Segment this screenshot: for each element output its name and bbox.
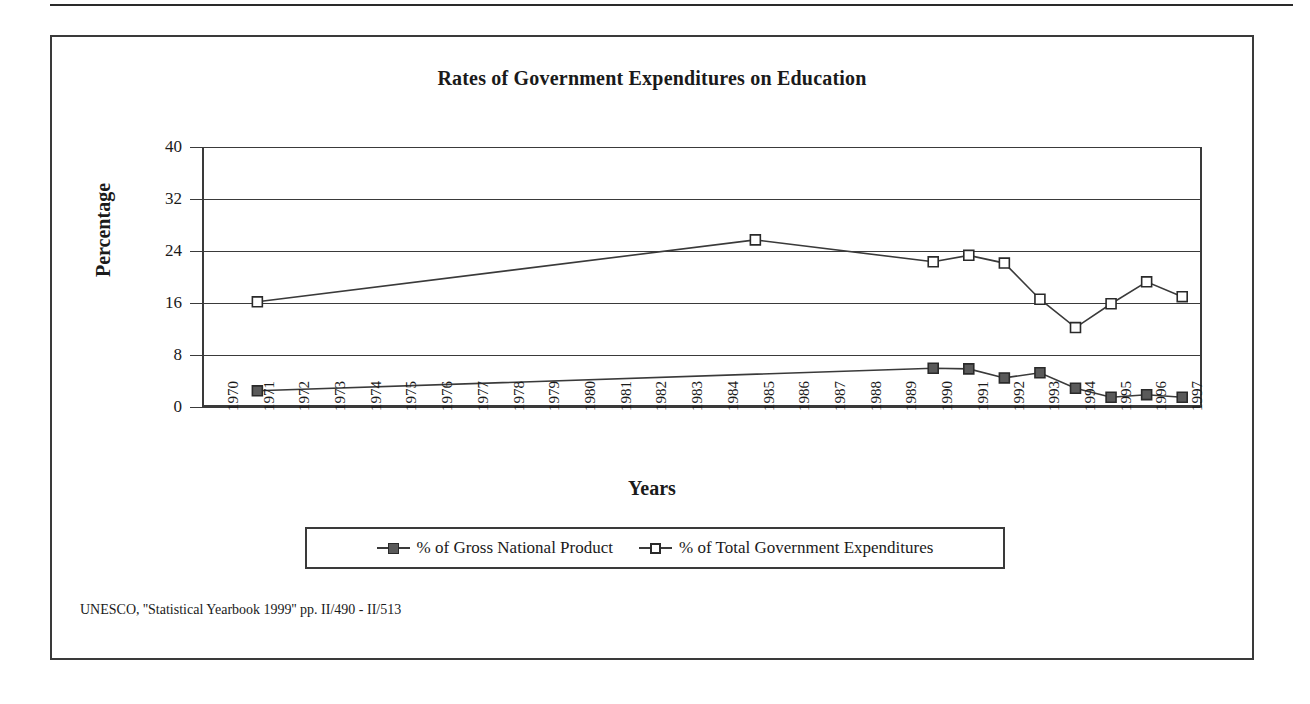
x-tick-label-1970: 1970 — [225, 381, 242, 411]
x-tick-label-1986: 1986 — [796, 381, 813, 411]
x-tick-label-1985: 1985 — [761, 381, 778, 411]
y-tick-24 — [190, 251, 204, 252]
x-tick-label-1990: 1990 — [939, 381, 956, 411]
y-tick-label-24: 24 — [165, 241, 182, 261]
open-square-marker-icon — [639, 543, 672, 554]
x-tick-label-1991: 1991 — [975, 381, 992, 411]
data-point-1997-total — [1177, 292, 1187, 302]
x-tick-label-1994: 1994 — [1082, 381, 1099, 411]
x-tick-label-1982: 1982 — [653, 381, 670, 411]
x-tick-label-1975: 1975 — [403, 381, 420, 411]
x-tick-label-1977: 1977 — [475, 381, 492, 411]
figure-frame: Rates of Government Expenditures on Educ… — [50, 35, 1254, 660]
x-tick-label-1989: 1989 — [903, 381, 920, 411]
y-tick-label-32: 32 — [165, 189, 182, 209]
y-tick-32 — [190, 199, 204, 200]
data-point-1992-gnp — [999, 373, 1009, 383]
x-tick-label-1978: 1978 — [511, 381, 528, 411]
legend-entry-gnp: % of Gross National Product — [377, 538, 613, 558]
plot-wrapper: 0816243240 — [202, 147, 1202, 407]
y-tick-label-40: 40 — [165, 137, 182, 157]
legend-label-gnp: % of Gross National Product — [417, 538, 613, 558]
y-tick-label-8: 8 — [174, 345, 183, 365]
x-tick-label-1973: 1973 — [332, 381, 349, 411]
y-tick-label-0: 0 — [174, 397, 183, 417]
data-point-1991-total — [964, 250, 974, 260]
x-tick-label-1995: 1995 — [1118, 381, 1135, 411]
x-tick-label-1984: 1984 — [725, 381, 742, 411]
x-tick-label-1983: 1983 — [689, 381, 706, 411]
x-tick-label-1996: 1996 — [1153, 381, 1170, 411]
data-point-1971-total — [252, 297, 262, 307]
data-point-1997-gnp — [1177, 392, 1187, 402]
x-tick-label-1993: 1993 — [1046, 381, 1063, 411]
y-tick-16 — [190, 303, 204, 304]
x-axis-title: Years — [52, 477, 1252, 500]
chart-title: Rates of Government Expenditures on Educ… — [52, 67, 1252, 90]
y-axis-title: Percentage — [92, 183, 115, 277]
x-tick-label-1992: 1992 — [1011, 381, 1028, 411]
data-point-1991-gnp — [964, 364, 974, 374]
x-tick-label-1981: 1981 — [618, 381, 635, 411]
legend-entry-total-expenditures: % of Total Government Expenditures — [639, 538, 933, 558]
filled-square-marker-icon — [377, 543, 410, 554]
data-point-1995-gnp — [1106, 392, 1116, 402]
top-divider-rule — [50, 4, 1293, 6]
data-point-1995-total — [1106, 299, 1116, 309]
legend-label-total-expenditures: % of Total Government Expenditures — [679, 538, 933, 558]
chart-legend: % of Gross National Product % of Total G… — [305, 527, 1005, 569]
x-tick-label-1997: 1997 — [1189, 381, 1206, 411]
y-tick-8 — [190, 355, 204, 356]
data-point-1990-gnp — [928, 363, 938, 373]
x-tick-label-1972: 1972 — [296, 381, 313, 411]
data-series-layer — [204, 147, 1200, 405]
x-tick-label-1988: 1988 — [868, 381, 885, 411]
y-tick-label-16: 16 — [165, 293, 182, 313]
data-point-1992-total — [999, 258, 1009, 268]
series-line-1 — [257, 240, 1182, 328]
y-tick-40 — [190, 147, 204, 148]
x-tick-label-1979: 1979 — [546, 381, 563, 411]
data-point-1994-total — [1071, 323, 1081, 333]
x-tick-label-1976: 1976 — [439, 381, 456, 411]
data-point-1994-gnp — [1071, 383, 1081, 393]
y-tick-0 — [190, 407, 204, 408]
data-point-1996-gnp — [1142, 390, 1152, 400]
x-tick-label-1987: 1987 — [832, 381, 849, 411]
plot-area — [202, 147, 1202, 407]
x-tick-label-1974: 1974 — [368, 381, 385, 411]
data-point-1985-total — [750, 235, 760, 245]
data-point-1996-total — [1142, 277, 1152, 287]
x-tick-label-1980: 1980 — [582, 381, 599, 411]
data-point-1993-gnp — [1035, 368, 1045, 378]
data-point-1990-total — [928, 257, 938, 267]
source-citation: UNESCO, ''Statistical Yearbook 1999'' pp… — [80, 602, 401, 618]
x-tick-label-1971: 1971 — [261, 381, 278, 411]
chart-page: Rates of Government Expenditures on Educ… — [0, 0, 1310, 704]
data-point-1993-total — [1035, 294, 1045, 304]
